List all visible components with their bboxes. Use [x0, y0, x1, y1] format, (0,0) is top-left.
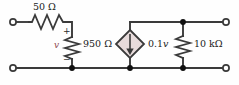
- output-terminal-top-right[interactable]: [223, 19, 229, 25]
- input-terminal-bottom-left[interactable]: [10, 65, 16, 71]
- circuit-diagram: 50 Ω + v − 950 Ω 0.1v 10 kΩ: [0, 0, 239, 85]
- node-shunt-bottom: [69, 65, 75, 71]
- resistor-50ohm-label: 50 Ω: [33, 2, 56, 12]
- node-load-bottom: [180, 65, 186, 71]
- resistor-50ohm-zigzag: [29, 15, 66, 29]
- dependent-source-label: 0.1v: [148, 39, 168, 49]
- resistor-10kohm-label: 10 kΩ: [194, 39, 223, 49]
- node-load-top: [180, 19, 186, 25]
- resistor-10kohm-zigzag: [176, 36, 190, 58]
- output-terminal-bottom-right[interactable]: [223, 65, 229, 71]
- resistor-950ohm-label: 950 Ω: [83, 39, 112, 49]
- shunt-polarity-minus: −: [63, 55, 71, 64]
- shunt-polarity-plus: +: [63, 27, 71, 36]
- dependent-source-variable: v: [163, 38, 168, 49]
- shunt-voltage-label: v: [54, 41, 59, 50]
- input-terminal-top-left[interactable]: [10, 19, 16, 25]
- dependent-source-coefficient: 0.1: [148, 38, 163, 49]
- node-source-bottom: [127, 65, 133, 71]
